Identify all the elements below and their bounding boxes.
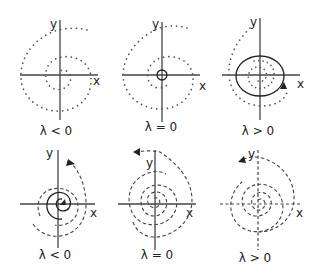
x-axis-label: x <box>199 79 206 93</box>
x-axis-label: x <box>93 74 100 88</box>
y-axis-label: y <box>50 17 57 31</box>
direction-arrow-icon <box>66 159 75 166</box>
direction-arrow-icon <box>238 156 246 163</box>
x-axis-label: x <box>297 77 304 91</box>
caption-bot-neg: λ < 0 <box>39 248 71 262</box>
dotted-spiral-trajectory <box>21 28 91 111</box>
y-axis-label: y <box>250 15 257 29</box>
dashed-spiral-trajectory <box>129 172 177 225</box>
caption-bot-zero: λ = 0 <box>141 248 173 262</box>
x-axis-label: x <box>296 206 303 220</box>
y-axis-label: y <box>146 156 153 170</box>
y-axis-label: y <box>46 146 53 160</box>
caption-bot-pos: λ > 0 <box>239 251 271 265</box>
panel-bottom-lambda-positive: y x λ > 0 <box>220 147 303 265</box>
direction-arrow-icon <box>60 199 66 205</box>
dashed-outer-spiral <box>242 157 294 232</box>
panel-bottom-lambda-negative: y x λ < 0 <box>20 146 97 262</box>
bifurcation-figure: y x λ < 0 y x λ = 0 y x λ > 0 y x <box>0 0 319 278</box>
panel-bottom-lambda-zero: y x λ = 0 <box>118 148 196 262</box>
caption-top-neg: λ < 0 <box>40 124 72 138</box>
dotted-outer-trajectory <box>229 28 287 106</box>
caption-top-zero: λ = 0 <box>145 120 177 134</box>
panel-top-lambda-positive: y x λ > 0 <box>222 15 304 138</box>
x-axis-label: x <box>90 206 97 220</box>
y-axis-label: y <box>248 147 255 161</box>
dashed-outer-spiral <box>133 151 192 237</box>
dashed-spiral-trajectory <box>231 182 283 232</box>
caption-top-pos: λ > 0 <box>242 124 274 138</box>
panel-top-lambda-zero: y x λ = 0 <box>122 17 206 134</box>
dotted-spiral-trajectory <box>123 26 193 109</box>
panel-top-lambda-negative: y x λ < 0 <box>20 17 100 138</box>
direction-arrow-icon <box>133 148 140 156</box>
